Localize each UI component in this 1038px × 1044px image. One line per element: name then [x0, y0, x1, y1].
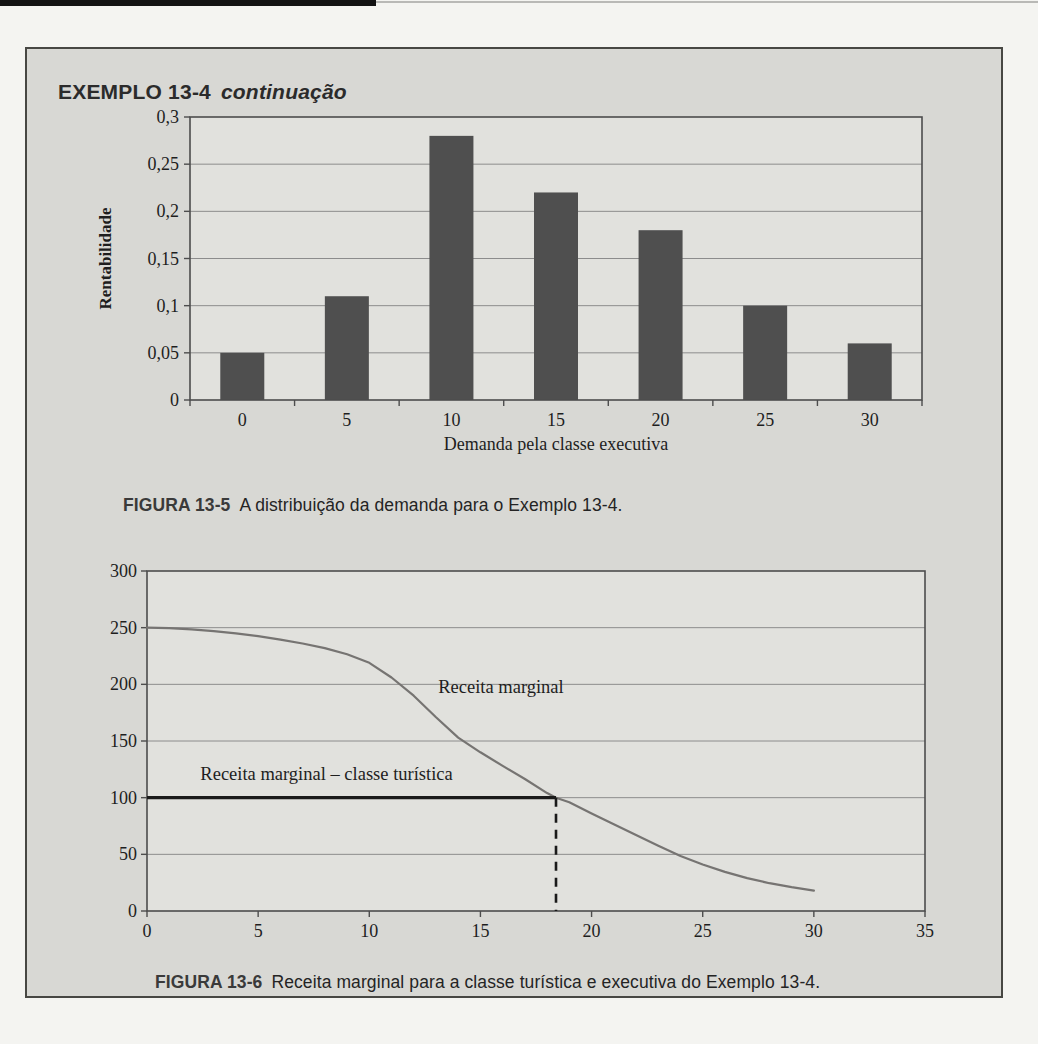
svg-text:0,05: 0,05 — [148, 343, 180, 363]
bar — [325, 296, 369, 400]
svg-text:0,25: 0,25 — [148, 154, 180, 174]
svg-text:35: 35 — [916, 921, 934, 941]
svg-text:0: 0 — [143, 921, 152, 941]
svg-text:30: 30 — [805, 921, 823, 941]
example-header-title: EXEMPLO 13-4 — [58, 80, 211, 103]
bar — [848, 343, 892, 400]
svg-text:Receita marginal – classe turí: Receita marginal – classe turística — [200, 764, 452, 784]
svg-text:0: 0 — [128, 901, 137, 921]
scan-top-edge-bar — [0, 0, 376, 6]
svg-text:5: 5 — [254, 921, 263, 941]
svg-text:250: 250 — [110, 618, 137, 638]
svg-text:10: 10 — [442, 410, 460, 430]
svg-text:0: 0 — [238, 410, 247, 430]
bar-chart-svg: 00,050,10,150,20,250,3051015202530Demand… — [95, 105, 935, 465]
svg-text:0,2: 0,2 — [157, 201, 180, 221]
svg-text:30: 30 — [861, 410, 879, 430]
svg-text:300: 300 — [110, 561, 137, 581]
svg-text:0,1: 0,1 — [157, 296, 180, 316]
svg-text:0: 0 — [170, 390, 179, 410]
svg-text:0,3: 0,3 — [157, 107, 180, 127]
line-chart-svg: 05010015020025030005101520253035Receita … — [95, 553, 955, 945]
line-xtick-labels: 05101520253035 — [143, 921, 935, 941]
bar — [743, 306, 787, 400]
example-header: EXEMPLO 13-4continuação — [58, 80, 347, 104]
svg-text:100: 100 — [110, 788, 137, 808]
figure-13-5-caption: FIGURA 13-5A distribuição da demanda par… — [123, 495, 622, 516]
line-chart-figure: 05010015020025030005101520253035Receita … — [95, 553, 955, 949]
svg-text:25: 25 — [694, 921, 712, 941]
bar-ytick-labels: 00,050,10,150,20,250,3 — [148, 107, 180, 410]
svg-text:0,15: 0,15 — [148, 249, 180, 269]
bar — [639, 230, 683, 400]
svg-text:50: 50 — [119, 844, 137, 864]
scan-top-edge-line — [376, 1, 1038, 3]
svg-text:5: 5 — [342, 410, 351, 430]
figure-13-5-caption-label: FIGURA 13-5 — [123, 495, 230, 515]
bar-yaxis-title: Rentabilidade — [96, 207, 115, 309]
bar-xaxis-title: Demanda pela classe executiva — [444, 434, 668, 454]
svg-text:20: 20 — [652, 410, 670, 430]
svg-text:150: 150 — [110, 731, 137, 751]
svg-text:10: 10 — [360, 921, 378, 941]
svg-text:20: 20 — [583, 921, 601, 941]
bar-xtick-labels: 051015202530 — [238, 410, 879, 430]
svg-text:15: 15 — [547, 410, 565, 430]
figure-13-5-caption-text: A distribuição da demanda para o Exemplo… — [239, 495, 622, 515]
bar-chart-figure: 00,050,10,150,20,250,3051015202530Demand… — [95, 105, 935, 469]
bar — [534, 192, 578, 400]
figure-13-6-caption-label: FIGURA 13-6 — [155, 972, 262, 992]
figure-13-6-caption-text: Receita marginal para a classe turística… — [271, 972, 820, 992]
svg-text:25: 25 — [756, 410, 774, 430]
svg-text:15: 15 — [471, 921, 489, 941]
svg-text:Receita marginal: Receita marginal — [438, 677, 564, 697]
bar — [429, 136, 473, 400]
svg-text:200: 200 — [110, 674, 137, 694]
line-ytick-labels: 050100150200250300 — [110, 561, 137, 921]
page: { "header": { "title": "EXEMPLO 13-4", "… — [0, 0, 1038, 1044]
figure-13-6-caption: FIGURA 13-6Receita marginal para a class… — [155, 972, 820, 993]
example-header-subtitle: continuação — [221, 80, 347, 103]
bar — [220, 353, 264, 400]
